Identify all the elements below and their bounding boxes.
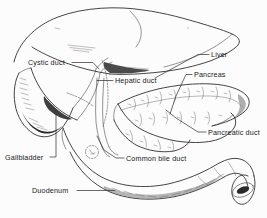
label-cystic-duct: Cystic duct (28, 58, 65, 67)
biliary-anatomy-illustration: Cystic duct Liver Hepatic duct Pancreas … (0, 0, 267, 218)
label-hepatic-duct: Hepatic duct (115, 76, 157, 85)
label-pancreas: Pancreas (194, 70, 226, 79)
label-pancreatic-duct: Pancreatic duct (208, 128, 260, 137)
leader-pancreas (170, 75, 192, 115)
gallbladder-structure (14, 68, 77, 137)
leader-pancreatic-duct (166, 110, 206, 132)
leader-lines (50, 55, 209, 191)
bile-duct-system (67, 58, 118, 159)
label-duodenum: Duodenum (32, 186, 68, 195)
label-liver: Liver (211, 50, 228, 59)
duodenum-structure (62, 128, 256, 204)
label-gallbladder: Gallbladder (5, 153, 44, 162)
label-common-bile-duct: Common bile duct (126, 154, 186, 163)
pancreas-structure (114, 84, 249, 152)
anatomical-figure-page: Cystic duct Liver Hepatic duct Pancreas … (0, 0, 267, 218)
leader-cystic-duct (72, 63, 99, 70)
leader-common-bile-duct (97, 136, 124, 158)
